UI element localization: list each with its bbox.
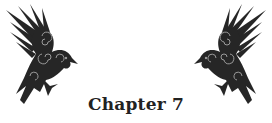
chapter-heading: Chapter 7 (0, 94, 272, 114)
raven-icon (190, 2, 270, 104)
raven-icon (2, 2, 82, 104)
